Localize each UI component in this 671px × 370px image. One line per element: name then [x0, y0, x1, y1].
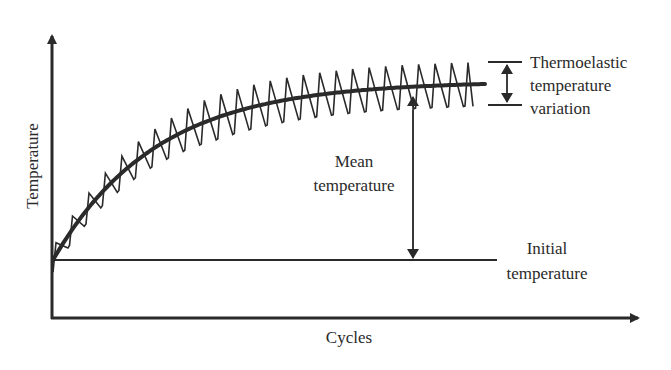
thermoelastic-label-line3: variation [530, 99, 591, 118]
thermoelastic-label-line1: Thermoelastic [530, 53, 628, 72]
initial-label-line1: Initial [527, 239, 568, 258]
oscillation-sawtooth [53, 63, 473, 273]
initial-label-line2: temperature [506, 264, 587, 283]
thermoelastic-diagram: Thermoelastic temperature variation Mean… [0, 0, 671, 370]
x-axis-label: Cycles [326, 328, 372, 347]
y-axis-label: Temperature [23, 123, 42, 209]
thermoelastic-label-line2: temperature [530, 76, 611, 95]
mean-temperature-curve [53, 84, 485, 260]
mean-label-line2: temperature [313, 176, 394, 195]
mean-label-line1: Mean [335, 152, 374, 171]
